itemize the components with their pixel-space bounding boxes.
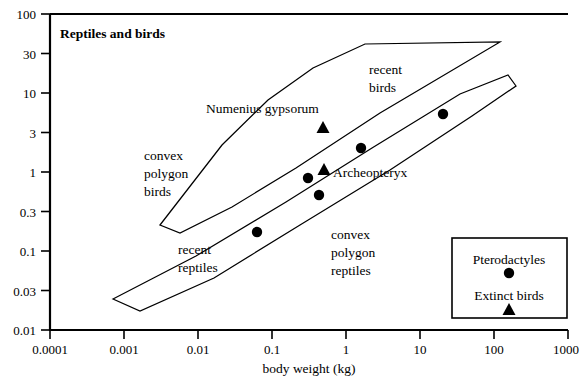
x-tick-label: 0.1 <box>264 342 280 357</box>
y-tick-label: 10 <box>23 86 36 101</box>
data-point-circle <box>356 143 366 153</box>
y-tick-label: 30 <box>23 47 36 62</box>
y-tick-label: 0.03 <box>13 284 36 299</box>
annotation-recent-reptiles-line2: reptiles <box>178 260 218 275</box>
y-tick-label: 0.3 <box>20 205 36 220</box>
axes-group: 100 30 10 3 1 0.3 0.1 0.03 0.01 0.0001 0… <box>13 7 579 376</box>
annotation-archeopteryx: Archeopteryx <box>333 165 407 180</box>
chart-title: Reptiles and birds <box>60 26 165 41</box>
legend-marker-circle <box>504 268 514 278</box>
x-tick-label: 0.01 <box>187 342 210 357</box>
y-tick-label: 100 <box>17 7 37 22</box>
data-point-triangle <box>318 163 331 175</box>
data-point-circle <box>252 227 262 237</box>
x-tick-label: 10 <box>414 342 427 357</box>
plot-canvas: 100 30 10 3 1 0.3 0.1 0.03 0.01 0.0001 0… <box>0 0 586 377</box>
birds-hull-polygon <box>160 42 500 233</box>
annotation-convex-birds-line3: birds <box>144 184 171 199</box>
annotation-convex-birds-line1: convex <box>144 148 183 163</box>
y-tick-label: 3 <box>30 126 37 141</box>
legend: Pterodactyles Extinct birds <box>452 238 567 318</box>
x-tick-marks <box>50 330 568 339</box>
y-tick-labels: 100 30 10 3 1 0.3 0.1 0.03 0.01 <box>13 7 36 338</box>
x-tick-labels: 0.0001 0.001 0.01 0.1 1 10 100 1000 <box>32 342 579 357</box>
data-point-circle <box>314 190 324 200</box>
data-point-circle <box>438 109 448 119</box>
chart-figure: 100 30 10 3 1 0.3 0.1 0.03 0.01 0.0001 0… <box>0 0 586 377</box>
x-tick-label: 0.0001 <box>32 342 68 357</box>
annotation-recent-reptiles-line1: recent <box>178 242 211 257</box>
annotation-numenius-gypsorum: Numenius gypsorum <box>206 101 319 116</box>
data-point-circle <box>303 173 313 183</box>
legend-label-extinct-birds: Extinct birds <box>474 288 543 303</box>
x-tick-label: 0.001 <box>109 342 138 357</box>
legend-label-pterodactyles: Pterodactyles <box>473 252 546 267</box>
x-tick-label: 1 <box>343 342 350 357</box>
annotation-convex-reptiles-line1: convex <box>331 227 370 242</box>
y-tick-marks <box>41 14 50 330</box>
x-tick-label: 100 <box>484 342 504 357</box>
x-axis-title: body weight (kg) <box>263 361 356 376</box>
annotation-recent-birds-line1: recent <box>369 62 402 77</box>
annotation-convex-reptiles-line3: reptiles <box>331 263 371 278</box>
annotation-convex-reptiles-line2: polygon <box>331 245 376 260</box>
annotation-convex-birds-line2: polygon <box>144 166 189 181</box>
y-tick-label: 0.1 <box>20 244 36 259</box>
x-tick-label: 1000 <box>553 342 579 357</box>
y-tick-label: 0.01 <box>13 323 36 338</box>
y-tick-label: 1 <box>30 165 37 180</box>
annotation-recent-birds-line2: birds <box>369 80 396 95</box>
data-point-triangle <box>317 121 330 133</box>
